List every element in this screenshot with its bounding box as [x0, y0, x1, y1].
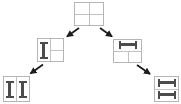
- pane-cell: [38, 39, 51, 61]
- horizontal-divider: [51, 50, 63, 51]
- vertical-ibeam-icon: [6, 81, 14, 98]
- pane-cell: [155, 77, 178, 90]
- vertical-ibeam-icon: [40, 42, 48, 59]
- node-horizontal-split: [113, 39, 142, 63]
- split-layout-tree-diagram: [0, 0, 181, 104]
- horizontal-ibeam-icon: [119, 41, 137, 49]
- horizontal-divider: [75, 14, 103, 15]
- pane-cell: [155, 90, 178, 102]
- arrow-right-branch-to-right-leaf: [137, 65, 150, 74]
- pane-cell: [4, 77, 17, 101]
- node-double-horizontal-split: [154, 76, 179, 102]
- arrow-root-to-left-branch: [67, 28, 79, 37]
- arrow-root-to-right-branch: [100, 28, 112, 37]
- pane-cell: [17, 77, 29, 101]
- vertical-divider: [128, 52, 129, 63]
- node-double-vertical-split: [3, 76, 30, 102]
- vertical-ibeam-icon: [19, 81, 27, 98]
- pane-cell: [114, 40, 141, 52]
- horizontal-ibeam-icon: [158, 91, 176, 99]
- horizontal-ibeam-icon: [158, 79, 176, 87]
- pane-cell: [114, 52, 141, 63]
- node-vertical-split: [37, 38, 64, 62]
- arrow-left-branch-to-left-leaf: [31, 65, 44, 74]
- pane-cell: [51, 39, 63, 61]
- node-root-grid: [74, 2, 104, 26]
